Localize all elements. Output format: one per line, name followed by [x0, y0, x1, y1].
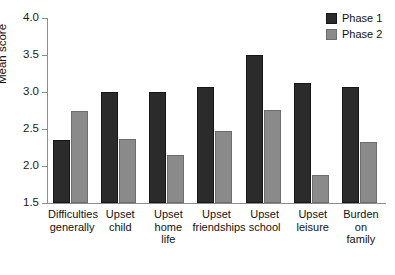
bar-phase-2	[360, 142, 377, 203]
y-axis-tick-label: 2.5	[1, 123, 39, 135]
x-axis-label-line: home	[144, 221, 192, 234]
x-axis-label-line: Upset	[289, 208, 337, 221]
x-axis-label: Difficultiesgenerally	[48, 208, 96, 233]
legend-label: Phase 2	[342, 28, 382, 40]
bar-group	[144, 18, 192, 203]
x-axis-label: Upsethomelife	[144, 208, 192, 246]
bar-phase-2	[312, 175, 329, 203]
bar-group	[96, 18, 144, 203]
bar-phase-1	[53, 140, 70, 203]
x-axis-label-line: on	[337, 221, 385, 234]
bar-chart: Mean score 1.52.02.53.03.54.0 Difficulti…	[0, 0, 395, 275]
bar-phase-1	[342, 87, 359, 203]
bar-group	[48, 18, 96, 203]
y-axis-tick-label: 2.0	[1, 160, 39, 172]
x-axis-label: Upsetschool	[241, 208, 289, 233]
x-axis-label-line: friendships	[192, 221, 240, 234]
x-axis-label-line: Difficulties	[48, 208, 96, 221]
x-axis-label: Upsetleisure	[289, 208, 337, 233]
x-axis-label-line: family	[337, 233, 385, 246]
x-axis-label-line: generally	[48, 221, 96, 234]
chart-legend: Phase 1Phase 2	[326, 12, 382, 44]
phase-2-swatch	[326, 29, 337, 40]
x-axis-label-line: Upset	[144, 208, 192, 221]
bar-group	[337, 18, 385, 203]
bar-phase-2	[71, 111, 88, 204]
x-axis-label-line: Upset	[241, 208, 289, 221]
legend-item[interactable]: Phase 1	[326, 12, 382, 24]
bar-groups	[48, 18, 385, 203]
x-axis-label-line: Burden	[337, 208, 385, 221]
bar-phase-1	[101, 92, 118, 203]
bar-phase-1	[197, 87, 214, 203]
x-axis-label: Burdenonfamily	[337, 208, 385, 246]
bar-phase-2	[119, 139, 136, 203]
x-axis-label-line: life	[144, 233, 192, 246]
bar-group	[192, 18, 240, 203]
x-axis-labels: DifficultiesgenerallyUpsetchildUpsethome…	[48, 208, 385, 270]
bar-phase-2	[264, 110, 281, 203]
bar-phase-1	[246, 55, 263, 203]
y-axis-ticks: 1.52.02.53.03.54.0	[0, 0, 48, 275]
phase-1-swatch	[326, 13, 337, 24]
legend-label: Phase 1	[342, 12, 382, 24]
y-axis-tick-label: 1.5	[1, 197, 39, 209]
x-axis-label-line: school	[241, 221, 289, 234]
y-axis-tick-label: 3.5	[1, 49, 39, 61]
bar-phase-2	[167, 155, 184, 203]
bar-phase-1	[294, 83, 311, 203]
bar-phase-1	[149, 92, 166, 203]
bar-phase-2	[215, 131, 232, 203]
y-axis-tick-label: 4.0	[1, 12, 39, 24]
bar-group	[289, 18, 337, 203]
y-axis-tick-label: 3.0	[1, 86, 39, 98]
bar-group	[241, 18, 289, 203]
x-axis-label-line: Upset	[96, 208, 144, 221]
x-axis-label-line: leisure	[289, 221, 337, 234]
x-axis-label: Upsetchild	[96, 208, 144, 233]
x-axis-label: Upsetfriendships	[192, 208, 240, 233]
x-axis-line	[47, 203, 386, 204]
x-axis-label-line: child	[96, 221, 144, 234]
legend-item[interactable]: Phase 2	[326, 28, 382, 40]
x-axis-label-line: Upset	[192, 208, 240, 221]
